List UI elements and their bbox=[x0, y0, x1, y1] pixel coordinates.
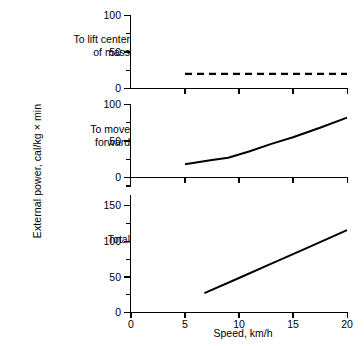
y-tick-label-lift-100: 100 bbox=[103, 9, 121, 21]
y-tick-label-total-150: 150 bbox=[103, 199, 121, 211]
y-tick-label-move-50: 50 bbox=[109, 135, 121, 147]
y-tick-label-lift-0: 0 bbox=[115, 82, 121, 94]
y-tick-label-total-50: 50 bbox=[109, 271, 121, 283]
panel-move-forward: 100 50 0 bbox=[103, 98, 348, 186]
panel-total: 150 100 50 0 0 5 10 15 20 bbox=[103, 195, 353, 330]
series-line-move-forward bbox=[185, 118, 347, 165]
y-tick-label-total-0: 0 bbox=[115, 306, 121, 318]
x-axis-title: Speed, km/h bbox=[130, 327, 356, 339]
y-tick-label-move-0: 0 bbox=[115, 171, 121, 183]
chart-plot-area: 100 50 0 100 50 0 bbox=[0, 0, 364, 346]
y-tick-label-total-100: 100 bbox=[103, 235, 121, 247]
panel-lift-center-of-mass: 100 50 0 bbox=[103, 9, 348, 94]
figure-container: External power, cal/kg × min To lift cen… bbox=[0, 0, 364, 346]
y-tick-label-move-100: 100 bbox=[103, 98, 121, 110]
series-line-total bbox=[204, 230, 347, 293]
y-tick-label-lift-50: 50 bbox=[109, 46, 121, 58]
